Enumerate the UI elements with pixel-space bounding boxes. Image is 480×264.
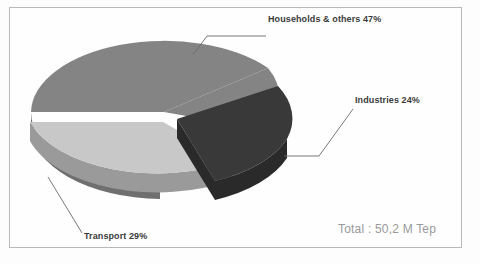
slice-label-industries: Industries 24% [355, 95, 420, 105]
total-annotation: Total : 50,2 M Tep [338, 222, 436, 236]
leader-line-transport [48, 177, 82, 233]
slice-label-transport: Transport 29% [84, 231, 147, 241]
slice-label-households: Households & others 47% [268, 14, 381, 24]
leader-line-industries [284, 109, 353, 156]
chart-page: Households & others 47% Industries 24% T… [0, 0, 480, 264]
